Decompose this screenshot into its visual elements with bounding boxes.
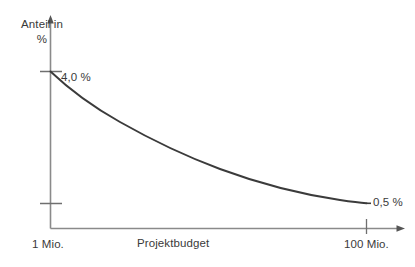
- x-tick-label-max: 100 Mio.: [344, 237, 389, 251]
- x-axis-arrow-icon: [397, 225, 406, 232]
- x-axis-title: Projektbudget: [137, 236, 209, 250]
- data-curve: [51, 72, 367, 204]
- y-axis-title-line1: Anteil in: [21, 18, 63, 30]
- y-axis-title-line2: %: [37, 33, 47, 45]
- annotation-start-value: 4,0 %: [61, 70, 91, 84]
- y-axis-title: Anteil in%: [6, 17, 78, 47]
- annotation-end-value: 0,5 %: [373, 195, 403, 209]
- x-tick-label-min: 1 Mio.: [32, 237, 64, 251]
- chart-container: Anteil in% Projektbudget 4,0 % 0,5 % 1 M…: [0, 0, 415, 267]
